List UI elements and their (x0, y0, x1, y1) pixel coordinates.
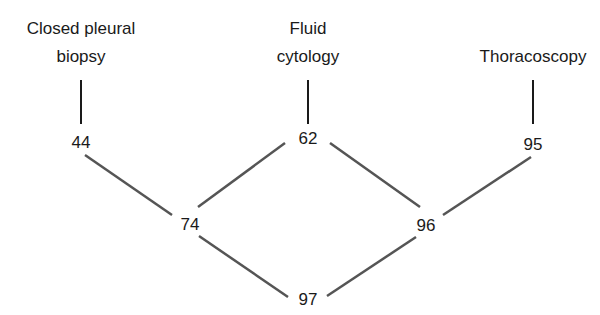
source-label-closed-pleural-biopsy: Closed pleural biopsy (27, 15, 136, 71)
source-label-line1: Fluid (277, 15, 339, 43)
source-label-line2: cytology (277, 43, 339, 71)
node-value-44: 44 (72, 133, 91, 153)
source-label-fluid-cytology: Fluid cytology (277, 15, 339, 71)
edge-96-97 (327, 237, 416, 296)
node-value-97: 97 (299, 290, 318, 310)
edge-74-97 (199, 236, 288, 297)
source-label-line1: Thoracoscopy (480, 43, 587, 71)
node-value-95: 95 (524, 135, 543, 155)
source-label-line1: Closed pleural (27, 15, 136, 43)
edge-44-74 (85, 155, 172, 215)
node-value-74: 74 (181, 215, 200, 235)
edge-62-74 (198, 143, 285, 207)
node-value-96: 96 (417, 216, 436, 236)
node-value-62: 62 (299, 129, 318, 149)
edge-95-96 (443, 157, 531, 215)
source-label-line2: biopsy (27, 43, 136, 71)
source-label-thoracoscopy: Thoracoscopy (480, 43, 587, 71)
edge-62-96 (330, 143, 420, 207)
